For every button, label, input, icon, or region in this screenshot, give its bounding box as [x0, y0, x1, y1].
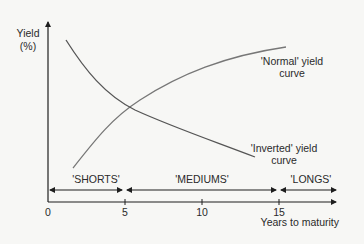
normal-curve-label-line1: 'Normal' yield — [261, 55, 324, 67]
y-axis-label-line1: Yield — [17, 27, 40, 39]
shorts-label: 'SHORTS' — [72, 173, 120, 185]
normal-curve-label-line2: curve — [279, 67, 305, 79]
x-tick-label-0: 0 — [45, 206, 51, 218]
yield-curve-chart: Yield (%) 0 5 10 15 Years to maturity 'S… — [0, 0, 364, 244]
inverted-curve-label-line2: curve — [271, 154, 297, 166]
x-tick-label-5: 5 — [122, 206, 128, 218]
x-axis-label: Years to maturity — [261, 216, 340, 228]
mediums-label: 'MEDIUMS' — [175, 173, 229, 185]
inverted-yield-curve — [66, 40, 255, 157]
inverted-curve-label-line1: 'Inverted' yield — [251, 142, 318, 154]
longs-label: 'LONGS' — [291, 173, 332, 185]
y-axis-label-line2: (%) — [20, 40, 36, 52]
x-tick-label-10: 10 — [196, 206, 208, 218]
